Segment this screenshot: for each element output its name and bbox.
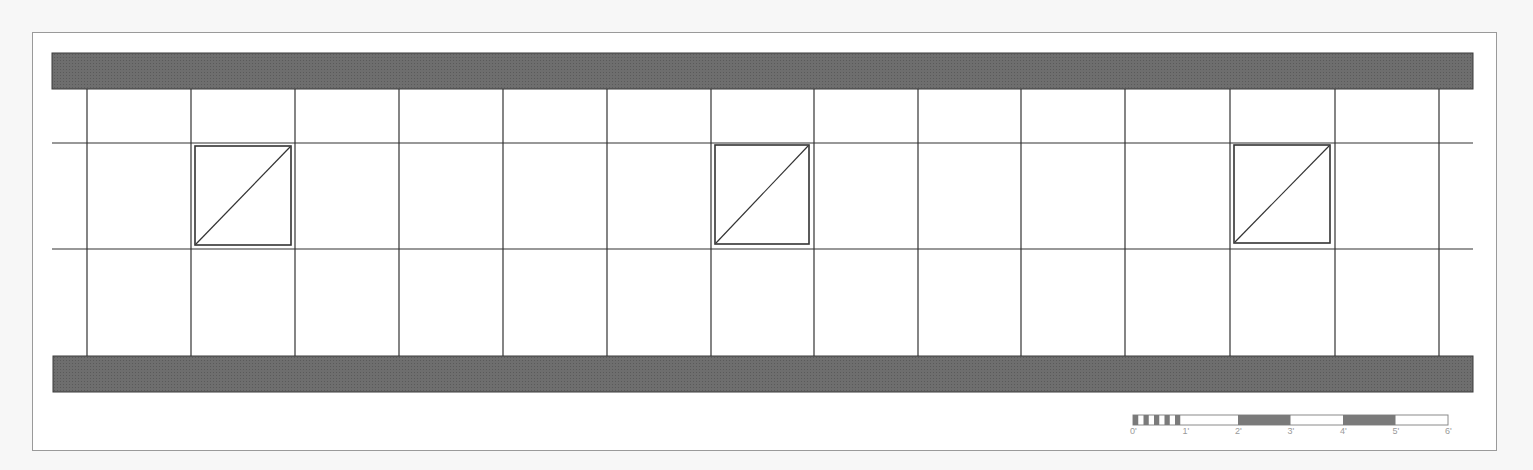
scale-bar-label: 0' bbox=[1130, 426, 1137, 436]
fixture-3 bbox=[1234, 145, 1330, 243]
fixture-1 bbox=[195, 146, 291, 245]
scale-bar-stripe bbox=[1175, 415, 1180, 425]
scale-bar-stripe bbox=[1154, 415, 1159, 425]
scale-bar-label: 1' bbox=[1183, 426, 1190, 436]
scale-bar-label: 4' bbox=[1340, 426, 1347, 436]
bottom-wall bbox=[53, 356, 1473, 392]
top-wall bbox=[52, 53, 1473, 89]
light-fixtures bbox=[195, 145, 1330, 245]
scale-bar-label: 6' bbox=[1445, 426, 1452, 436]
scale-bar-label: 2' bbox=[1235, 426, 1242, 436]
ceiling-plan-drawing bbox=[0, 0, 1533, 470]
scale-bar bbox=[1133, 415, 1448, 425]
scale-bar-label: 3' bbox=[1288, 426, 1295, 436]
scale-bar-stripe bbox=[1144, 415, 1149, 425]
scale-bar-segment bbox=[1343, 415, 1396, 425]
scale-bar-stripe bbox=[1165, 415, 1170, 425]
scale-bar-label: 5' bbox=[1393, 426, 1400, 436]
fixture-2 bbox=[715, 145, 809, 244]
scale-bar-stripe bbox=[1133, 415, 1138, 425]
scale-bar-segment bbox=[1238, 415, 1291, 425]
